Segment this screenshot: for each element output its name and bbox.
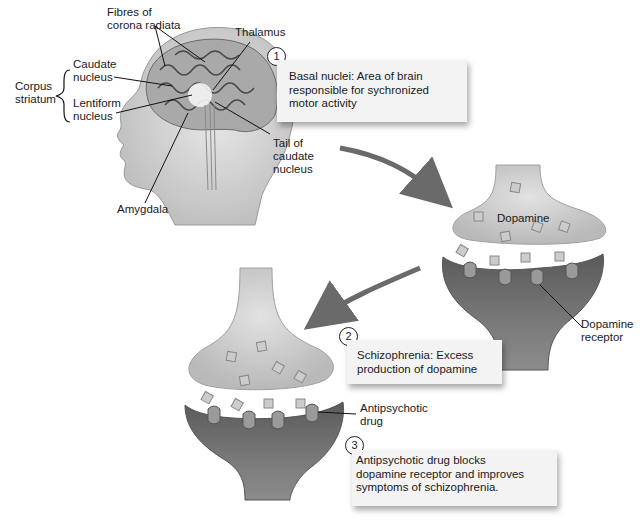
label-line: nucleus bbox=[273, 163, 314, 176]
label-line: Antipsychotic bbox=[360, 402, 428, 415]
label-tail-of-caudate-nucleus: Tail of caudate nucleus bbox=[273, 137, 314, 176]
label-line: Dopamine bbox=[581, 318, 633, 331]
step-2-text: production of dopamine bbox=[357, 363, 492, 377]
label-fibres-corona-radiata: Fibres of corona radiata bbox=[107, 6, 181, 32]
label-line: Fibres of bbox=[107, 6, 181, 19]
label-thalamus: Thalamus bbox=[235, 26, 286, 39]
label-line: striatum bbox=[15, 93, 56, 106]
label-caudate-nucleus: Caudate nucleus bbox=[73, 58, 116, 84]
label-dopamine-receptor: Dopamine receptor bbox=[581, 318, 633, 344]
step-3-text: dopamine receptor and improves bbox=[356, 468, 547, 482]
step-1-text: Basal nuclei: Area of brain bbox=[289, 70, 457, 84]
label-dopamine: Dopamine bbox=[497, 212, 549, 225]
top-presynaptic-terminal bbox=[453, 165, 606, 244]
label-line: nucleus bbox=[73, 71, 116, 84]
label-line: caudate bbox=[273, 150, 314, 163]
label-line: nucleus bbox=[73, 110, 121, 123]
bottom-postsynaptic-terminal bbox=[185, 402, 356, 500]
step-1-text: motor activity bbox=[289, 97, 457, 111]
step-1-text: responsible for sychronized bbox=[289, 84, 457, 98]
step-2-box: Schizophrenia: Excess production of dopa… bbox=[347, 340, 502, 384]
label-line: receptor bbox=[581, 331, 633, 344]
label-line: Tail of bbox=[273, 137, 314, 150]
label-line: drug bbox=[360, 415, 428, 428]
step-3-text: Antipsychotic drug blocks bbox=[356, 454, 547, 468]
step-3-box: Antipsychotic drug blocks dopamine recep… bbox=[352, 450, 557, 506]
step-3-text: symptoms of schizophrenia. bbox=[356, 481, 547, 495]
label-line: Caudate bbox=[73, 58, 116, 71]
label-corpus-striatum: Corpus striatum bbox=[15, 80, 56, 106]
bottom-presynaptic-terminal bbox=[189, 268, 334, 390]
label-line: corona radiata bbox=[107, 19, 181, 32]
label-line: Lentiform bbox=[73, 97, 121, 110]
label-antipsychotic-drug: Antipsychotic drug bbox=[360, 402, 428, 428]
label-lentiform-nucleus: Lentiform nucleus bbox=[73, 97, 121, 123]
step-2-text: Schizophrenia: Excess bbox=[357, 349, 492, 363]
step-1-box: Basal nuclei: Area of brain responsible … bbox=[277, 60, 467, 122]
label-line: Corpus bbox=[15, 80, 56, 93]
label-amygdala: Amygdala bbox=[117, 203, 168, 216]
